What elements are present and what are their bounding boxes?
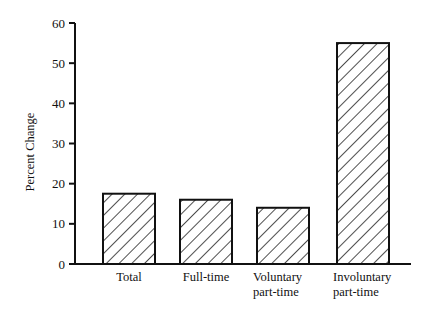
x-tick-label: Voluntary: [253, 270, 303, 284]
bar-voluntary-part-time: [257, 208, 309, 264]
y-tick-label: 20: [52, 176, 65, 191]
bar-full-time: [180, 200, 232, 264]
bar-chart: Percent Change 0102030405060 TotalFull-t…: [0, 0, 433, 315]
y-tick-label: 40: [52, 96, 65, 111]
bar-involuntary-part-time: [337, 43, 389, 264]
x-tick-label: Full-time: [183, 270, 230, 284]
y-tick-label: 30: [52, 136, 65, 151]
bars: [103, 43, 389, 264]
y-tick-label: 0: [59, 257, 66, 272]
y-tick-label: 50: [52, 56, 65, 71]
y-tick-label: 10: [52, 216, 65, 231]
x-tick-label: part-time: [253, 285, 299, 299]
x-tick-label: part-time: [333, 285, 379, 299]
x-tick-label: Involuntary: [333, 270, 392, 284]
y-tick-label: 60: [52, 16, 65, 31]
y-axis-label-group: Percent Change: [23, 112, 37, 191]
x-axis-labels: TotalFull-timeVoluntarypart-timeInvolunt…: [116, 270, 392, 299]
bar-total: [103, 194, 155, 264]
y-axis-title: Percent Change: [23, 112, 37, 191]
x-tick-label: Total: [116, 270, 142, 284]
